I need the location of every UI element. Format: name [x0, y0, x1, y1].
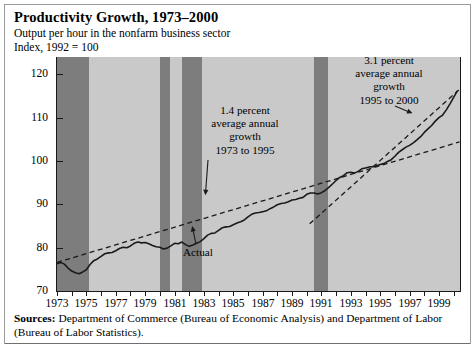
annotation-line: growth: [330, 80, 448, 93]
y-axis-label: 80: [14, 241, 48, 253]
y-axis-label: 110: [14, 111, 48, 123]
y-axis-tick: [57, 118, 63, 119]
x-axis-tick: [307, 291, 308, 296]
y-axis-label: 120: [14, 67, 48, 79]
y-axis-label: 70: [14, 284, 48, 296]
sources-note: Sources: Department of Commerce (Bureau …: [14, 312, 456, 339]
annotation-line: 1973 to 1995: [186, 144, 304, 157]
right-axis-line: [460, 57, 461, 292]
x-axis-tick: [145, 291, 146, 296]
x-axis-tick: [233, 291, 234, 296]
x-axis-tick: [160, 291, 161, 296]
x-axis-tick: [263, 291, 264, 296]
x-axis-tick: [72, 291, 73, 296]
page-title: Productivity Growth, 1973–2000: [14, 9, 218, 26]
x-axis-tick: [366, 291, 367, 296]
x-axis-tick: [351, 291, 352, 296]
x-axis-tick: [175, 291, 176, 296]
x-axis-tick: [204, 291, 205, 296]
y-axis-tick: [57, 248, 63, 249]
x-axis-tick: [321, 291, 322, 296]
x-axis-tick: [439, 291, 440, 296]
x-axis-tick: [130, 291, 131, 296]
y-axis-tick: [57, 161, 63, 162]
annotation-actual: Actual: [183, 246, 213, 259]
annotation-line: 1.4 percent: [186, 104, 304, 117]
x-axis-tick: [336, 291, 337, 296]
x-axis-tick: [410, 291, 411, 296]
annotation-line: average annual: [330, 67, 448, 80]
y-axis-tick: [57, 204, 63, 205]
x-axis-tick: [292, 291, 293, 296]
x-axis-tick: [380, 291, 381, 296]
annotation-line: average annual: [186, 117, 304, 130]
trend-line: [57, 142, 460, 262]
sources-text: Department of Commerce (Bureau of Econom…: [14, 312, 442, 338]
x-axis-tick: [277, 291, 278, 296]
y-axis-line: [56, 57, 57, 292]
chart-subtitle-line2: Index, 1992 = 100: [14, 41, 98, 53]
x-axis-tick: [395, 291, 396, 296]
x-axis-label: 1999: [419, 297, 459, 309]
annotation-line: 1995 to 2000: [330, 94, 448, 107]
trend-line: [310, 90, 459, 224]
sources-label: Sources:: [14, 312, 56, 324]
annotation-line: 3.1 percent: [330, 54, 448, 67]
y-axis-label: 100: [14, 154, 48, 166]
x-axis-tick: [454, 291, 455, 296]
chart-subtitle-line1: Output per hour in the nonfarm business …: [14, 27, 230, 39]
y-axis-label: 90: [14, 197, 48, 209]
x-axis-tick: [116, 291, 117, 296]
x-axis-tick: [189, 291, 190, 296]
x-axis-tick: [101, 291, 102, 296]
x-axis-tick: [248, 291, 249, 296]
annotation-trend-late: 3.1 percentaverage annualgrowth1995 to 2…: [330, 54, 448, 107]
x-axis-tick: [219, 291, 220, 296]
x-axis-tick: [86, 291, 87, 296]
annotation-trend-early: 1.4 percentaverage annualgrowth1973 to 1…: [186, 104, 304, 157]
annotation-line: growth: [186, 130, 304, 143]
y-axis-tick: [57, 74, 63, 75]
figure-container: Productivity Growth, 1973–2000 Output pe…: [0, 0, 475, 348]
x-axis-tick: [57, 291, 58, 296]
bottom-rule: [5, 343, 470, 344]
x-axis-tick: [424, 291, 425, 296]
